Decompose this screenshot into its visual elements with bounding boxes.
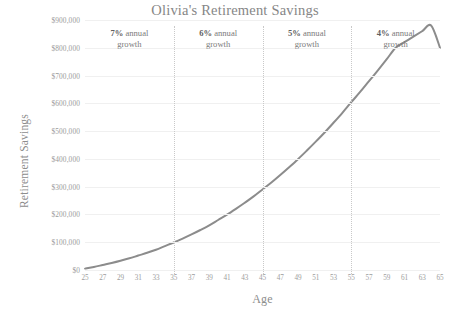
y-axis-tick-label: $400,000 bbox=[18, 155, 80, 164]
x-axis-tick-label: 53 bbox=[330, 274, 337, 282]
segment-divider bbox=[174, 26, 175, 274]
annotation-line-2: growth bbox=[84, 39, 174, 50]
x-axis-tick-label: 45 bbox=[259, 274, 266, 282]
annotation-line-2: growth bbox=[262, 39, 352, 50]
y-axis-tick-label: $900,000 bbox=[18, 16, 80, 25]
annotation-segment-5: 5% annualgrowth bbox=[262, 28, 352, 50]
annotation-rate: 4% bbox=[377, 28, 390, 38]
annotation-rate: 7% bbox=[110, 28, 123, 38]
retirement-savings-chart: Olivia's Retirement Savings Retirement S… bbox=[0, 0, 470, 322]
y-axis-tick-label: $200,000 bbox=[18, 210, 80, 219]
x-axis-tick-label: 55 bbox=[348, 274, 355, 282]
y-axis-tick-label: $600,000 bbox=[18, 99, 80, 108]
x-axis-tick-label: 41 bbox=[223, 274, 230, 282]
y-axis-tick-label: $700,000 bbox=[18, 72, 80, 81]
x-axis-tick-label: 59 bbox=[383, 274, 390, 282]
y-axis-tick-label: $800,000 bbox=[18, 44, 80, 53]
y-axis-tick-label: $100,000 bbox=[18, 238, 80, 247]
annotation-line-1: 7% annual bbox=[84, 28, 174, 39]
x-axis-tick-label: 39 bbox=[206, 274, 213, 282]
y-axis-tick-label: $300,000 bbox=[18, 183, 80, 192]
annotation-segment-4: 4% annualgrowth bbox=[351, 28, 441, 50]
x-axis-tick-label: 27 bbox=[99, 274, 106, 282]
x-axis-tick-label: 33 bbox=[152, 274, 159, 282]
y-axis-tick-label: $0 bbox=[18, 266, 80, 275]
annotation-line-1: 6% annual bbox=[173, 28, 263, 39]
y-axis-tick-label: $500,000 bbox=[18, 127, 80, 136]
x-axis-tick-label: 29 bbox=[117, 274, 124, 282]
x-axis-tick-label: 35 bbox=[170, 274, 177, 282]
gridline bbox=[85, 20, 440, 21]
x-axis-tick-label: 57 bbox=[365, 274, 372, 282]
segment-divider bbox=[351, 26, 352, 274]
annotation-segment-7: 7% annualgrowth bbox=[84, 28, 174, 50]
annotation-line-2: growth bbox=[351, 39, 441, 50]
segment-divider bbox=[263, 26, 264, 274]
x-axis-title: Age bbox=[85, 292, 440, 307]
annotation-rate: 6% bbox=[199, 28, 212, 38]
annotation-segment-6: 6% annualgrowth bbox=[173, 28, 263, 50]
x-axis-tick-label: 49 bbox=[294, 274, 301, 282]
x-axis-tick-label: 25 bbox=[81, 274, 88, 282]
annotation-line-1: 4% annual bbox=[351, 28, 441, 39]
x-axis-tick-label: 65 bbox=[436, 274, 443, 282]
x-axis-tick-label: 43 bbox=[241, 274, 248, 282]
annotation-line-2: growth bbox=[173, 39, 263, 50]
x-axis-tick-label: 37 bbox=[188, 274, 195, 282]
x-axis-tick-label: 63 bbox=[419, 274, 426, 282]
x-axis-tick-label: 47 bbox=[277, 274, 284, 282]
x-axis-tick-label: 31 bbox=[135, 274, 142, 282]
annotation-rate: 5% bbox=[288, 28, 301, 38]
x-axis-tick-label: 51 bbox=[312, 274, 319, 282]
x-axis-tick-label: 61 bbox=[401, 274, 408, 282]
annotation-line-1: 5% annual bbox=[262, 28, 352, 39]
